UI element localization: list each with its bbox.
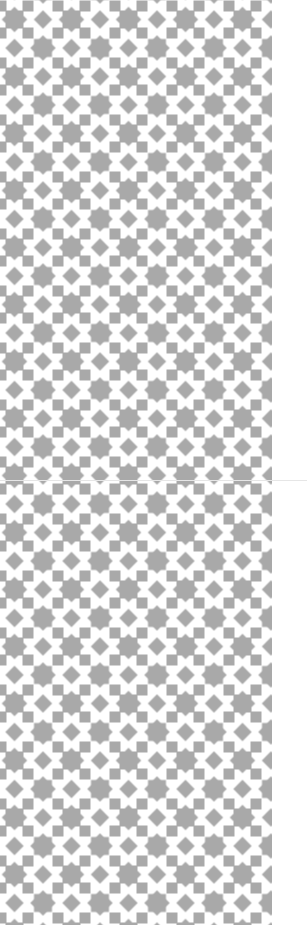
image-seam: [0, 480, 307, 481]
pattern-svg: [0, 0, 307, 925]
geometric-pattern-image: [0, 0, 307, 925]
pattern-fill: [0, 0, 272, 925]
